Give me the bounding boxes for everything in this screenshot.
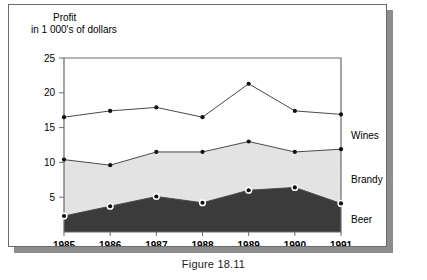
data-point-brandy [339, 147, 343, 151]
data-point-brandy [247, 139, 251, 143]
data-point-brandy [108, 163, 112, 167]
panel-face: Profit in 1 000's of dollars 51015202519… [8, 4, 387, 247]
data-point-wines [339, 112, 343, 116]
data-point-beer [108, 204, 112, 208]
x-axis-tick-label: 1990 [284, 240, 307, 246]
x-axis-tick-label: 1991 [330, 240, 353, 246]
y-axis-tick-label: 15 [44, 122, 56, 133]
data-point-beer [247, 188, 251, 192]
data-point-brandy [200, 150, 204, 154]
chart-plot-area: 5101520251985198619871988198919901991Bee… [9, 5, 386, 246]
data-point-wines [154, 105, 158, 109]
figure-caption: Figure 18.11 [0, 258, 427, 270]
data-point-wines [62, 115, 66, 119]
data-point-brandy [62, 158, 66, 162]
data-point-wines [247, 82, 251, 86]
data-point-wines [293, 109, 297, 113]
y-axis-tick-label: 20 [44, 87, 56, 98]
data-point-beer [339, 201, 343, 205]
stacked-area-chart: 5101520251985198619871988198919901991Bee… [9, 5, 386, 246]
data-point-brandy [154, 150, 158, 154]
y-axis-tick-label: 25 [44, 53, 56, 64]
x-axis-tick-label: 1989 [238, 240, 261, 246]
x-axis-tick-label: 1985 [53, 240, 76, 246]
data-point-beer [62, 214, 66, 218]
x-axis-tick-label: 1987 [145, 240, 168, 246]
data-point-beer [293, 185, 297, 189]
x-axis-tick-label: 1988 [191, 240, 214, 246]
x-axis-tick-label: 1986 [99, 240, 122, 246]
figure-panel: Profit in 1 000's of dollars 51015202519… [8, 4, 387, 247]
data-point-brandy [293, 150, 297, 154]
data-point-beer [200, 201, 204, 205]
series-label-beer: Beer [351, 214, 373, 225]
data-point-wines [200, 115, 204, 119]
y-axis-tick-label: 5 [49, 192, 55, 203]
data-point-beer [154, 194, 158, 198]
y-axis-tick-label: 10 [44, 157, 56, 168]
series-label-brandy: Brandy [351, 174, 383, 185]
data-point-wines [108, 109, 112, 113]
series-label-wines: Wines [351, 130, 379, 141]
